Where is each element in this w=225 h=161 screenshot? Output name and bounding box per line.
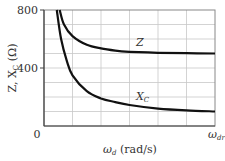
y-tick-label-800: 800 — [17, 4, 38, 17]
y-tick-label-400: 400 — [17, 62, 38, 75]
x-axis-title: ωd (rad/s) — [103, 143, 157, 157]
xc-curve-label: XC — [135, 90, 150, 104]
x-origin-label: 0 — [34, 128, 41, 141]
y-axis-title: Z, XC (Ω) — [6, 44, 20, 93]
impedance-chart: 800 400 0 ωdr Z, XC (Ω) ωd (rad/s) Z XC — [0, 0, 225, 161]
z-curve-label: Z — [135, 36, 144, 49]
x-end-label: ωdr — [208, 128, 225, 142]
